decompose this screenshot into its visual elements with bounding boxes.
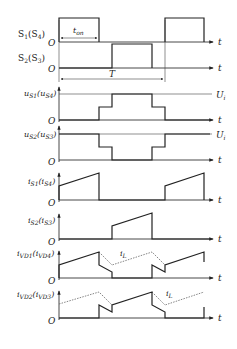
label-ivd1: iVD1(iVD4) <box>17 249 54 259</box>
panel-us1: uS1(uS4) O t Ui <box>24 87 226 126</box>
ui-label: Ui <box>216 130 226 141</box>
il-label: iL <box>120 249 127 259</box>
label-is2: iS2(iS3) <box>28 216 55 226</box>
ivd2-current-wave <box>59 292 204 318</box>
il-label: iL <box>166 289 173 299</box>
origin-label: O <box>48 316 56 326</box>
panel-is1: iS1(iS4) O t <box>28 173 222 208</box>
axis-label-t: t <box>218 63 222 73</box>
label-is1: iS1(iS4) <box>28 177 55 187</box>
period-label: T <box>109 69 116 79</box>
origin-label: O <box>48 276 56 286</box>
s2-gate-pulse <box>59 44 152 68</box>
label-us1: uS1(uS4) <box>24 89 56 99</box>
origin-label: O <box>48 64 56 74</box>
label-us2: uS2(uS3) <box>24 130 56 140</box>
origin-label: O <box>48 157 56 167</box>
label-s1: S1(S4) <box>18 29 45 40</box>
axis-label-t: t <box>218 155 222 165</box>
axis-label-t: t <box>218 273 222 283</box>
il-reference-line <box>99 252 165 265</box>
axis-label-t: t <box>218 195 222 205</box>
panel-ivd1: iVD1(iVD4) O t iL <box>17 249 222 286</box>
waveform-diagram: S1(S4) O t ton S2(S3) O t T uS1(uS4) O t… <box>0 0 237 349</box>
label-s2: S2(S3) <box>18 53 45 64</box>
ivd1-current-wave <box>59 252 204 278</box>
axis-label-t: t <box>218 115 222 125</box>
origin-label: O <box>48 116 56 126</box>
us2-voltage-wave <box>59 134 210 160</box>
is2-current-wave <box>59 213 210 239</box>
origin-label: O <box>48 237 56 247</box>
ton-label: ton <box>73 26 84 36</box>
label-ivd2: iVD2(iVD3) <box>17 290 54 300</box>
panel-ivd2: iVD2(iVD3) O t iL <box>17 289 222 326</box>
origin-label: O <box>48 38 56 48</box>
panel-s2: S2(S3) O t T <box>18 20 222 82</box>
axis-label-t: t <box>218 37 222 47</box>
panel-us2: uS2(uS3) O t Ui <box>24 126 226 167</box>
origin-label: O <box>48 198 56 208</box>
axis-label-t: t <box>218 234 222 244</box>
ui-label: Ui <box>216 90 226 101</box>
is1-current-wave <box>59 173 204 200</box>
axis-label-t: t <box>218 313 222 323</box>
panel-is2: iS2(iS3) O t <box>28 213 222 247</box>
us1-voltage-wave <box>59 94 210 120</box>
